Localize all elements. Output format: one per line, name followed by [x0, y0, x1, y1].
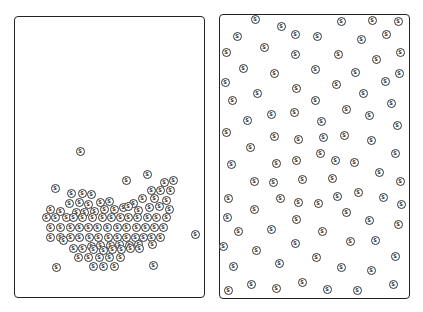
dollar-coin-icon: S [342, 208, 351, 217]
dollar-coin-icon: S [267, 110, 276, 119]
dollar-coin-icon: S [359, 89, 368, 98]
dollar-coin-icon: S [387, 99, 396, 108]
dollar-coin-icon: S [227, 160, 236, 169]
dollar-coin-icon: S [396, 177, 405, 186]
dollar-coin-icon: S [375, 168, 384, 177]
dollar-coin-icon: S [393, 121, 402, 130]
dollar-coin-icon: S [270, 132, 279, 141]
dollar-coin-icon: S [239, 64, 248, 73]
dollar-coin-icon: S [224, 286, 233, 295]
dollar-coin-icon: S [294, 198, 303, 207]
dollar-coin-icon: S [290, 108, 299, 117]
dollar-coin-icon: S [252, 246, 261, 255]
dollar-coin-icon: S [334, 50, 343, 59]
dollar-coin-icon: S [396, 48, 405, 57]
dollar-coin-icon: S [243, 116, 252, 125]
dollar-coin-icon: S [314, 199, 323, 208]
dollar-coin-icon: S [276, 194, 285, 203]
dollar-coin-icon: S [292, 84, 301, 93]
dollar-coin-icon: S [224, 194, 233, 203]
dollar-coin-icon: S [354, 188, 363, 197]
dollar-coin-icon: S [367, 136, 376, 145]
dollar-coin-icon: S [365, 111, 374, 120]
dollar-coin-icon: S [311, 96, 320, 105]
dollar-coin-icon: S [233, 32, 242, 41]
dollar-coin-icon: S [272, 284, 281, 293]
dollar-coin-icon: S [394, 17, 403, 26]
dollar-coin-icon: S [357, 35, 366, 44]
dollar-coin-icon: S [389, 280, 398, 289]
dollar-coin-icon: S [319, 133, 328, 142]
dollar-coin-icon: S [397, 200, 406, 209]
dollar-coin-icon: S [270, 69, 279, 78]
dollar-coin-icon: S [246, 143, 255, 152]
dollar-coin-icon: S [333, 192, 342, 201]
dollar-coin-icon: S [368, 16, 377, 25]
dollar-coin-icon: S [229, 262, 238, 271]
dollar-coin-icon: S [298, 175, 307, 184]
dollar-coin-icon: S [298, 278, 307, 287]
dollar-coin-icon: S [221, 78, 230, 87]
dollar-coin-icon: S [275, 259, 284, 268]
dollar-coin-icon: S [340, 131, 349, 140]
dollar-coin-icon: S [269, 178, 278, 187]
dollar-coin-icon: S [292, 156, 301, 165]
dollar-coin-icon: S [351, 68, 360, 77]
dollar-coin-icon: S [247, 280, 256, 289]
dollar-coin-icon: S [391, 149, 400, 158]
dollar-coin-icon: S [272, 159, 281, 168]
dollar-coin-icon: S [234, 227, 243, 236]
dollar-coin-icon: S [291, 239, 300, 248]
dollar-coin-icon: S [371, 236, 380, 245]
dollar-coin-icon: S [331, 156, 340, 165]
dollar-coin-icon: S [277, 22, 286, 31]
dollar-coin-icon: S [342, 105, 351, 114]
dollar-coin-icon: S [332, 80, 341, 89]
dollar-coin-icon: S [346, 237, 355, 246]
dollar-coin-icon: S [394, 220, 403, 229]
dollar-coin-icon: S [391, 252, 400, 261]
dollar-coin-icon: S [337, 263, 346, 272]
dollar-coin-icon: S [291, 30, 300, 39]
dollar-coin-icon: S [337, 17, 346, 26]
dollar-coin-icon: S [365, 216, 374, 225]
dollar-coin-icon: S [382, 30, 391, 39]
dollar-coin-icon: S [350, 158, 359, 167]
right-coin-layer: SSSSSSSSSSSSSSSSSSSSSSSSSSSSSSSSSSSSSSSS… [0, 0, 423, 312]
dollar-coin-icon: S [311, 65, 320, 74]
dollar-coin-icon: S [291, 50, 300, 59]
dollar-coin-icon: S [222, 48, 231, 57]
dollar-coin-icon: S [250, 205, 259, 214]
dollar-coin-icon: S [395, 69, 404, 78]
dollar-coin-icon: S [367, 266, 376, 275]
dollar-coin-icon: S [379, 193, 388, 202]
dollar-coin-icon: S [253, 89, 262, 98]
dollar-coin-icon: S [381, 77, 390, 86]
dollar-coin-icon: S [228, 96, 237, 105]
dollar-coin-icon: S [267, 225, 276, 234]
dollar-coin-icon: S [312, 253, 321, 262]
dollar-coin-icon: S [219, 242, 228, 251]
dollar-coin-icon: S [323, 285, 332, 294]
dollar-coin-icon: S [313, 32, 322, 41]
dollar-coin-icon: S [223, 213, 232, 222]
dollar-coin-icon: S [222, 128, 231, 137]
dollar-coin-icon: S [372, 55, 381, 64]
dollar-coin-icon: S [316, 149, 325, 158]
dollar-coin-icon: S [251, 15, 260, 24]
dollar-coin-icon: S [318, 227, 327, 236]
dollar-coin-icon: S [250, 177, 259, 186]
dollar-coin-icon: S [317, 117, 326, 126]
dollar-coin-icon: S [294, 135, 303, 144]
dollar-coin-icon: S [328, 174, 337, 183]
dollar-coin-icon: S [353, 286, 362, 295]
dollar-coin-icon: S [292, 215, 301, 224]
dollar-coin-icon: S [260, 43, 269, 52]
